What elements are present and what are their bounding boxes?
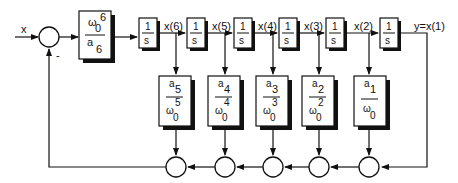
signal-label-x5: x(5): [212, 20, 231, 32]
coefficient-block-a2: a 2 2 ω 0: [302, 76, 338, 130]
signal-label-x3: x(3): [304, 20, 323, 32]
main-feedback-line: [49, 49, 166, 167]
coefficient-block-a3: a 3 3 ω 0: [256, 76, 292, 130]
svg-text:1: 1: [193, 21, 199, 32]
coefficient-block-a1: a 1 ω 0: [354, 76, 390, 130]
signal-label-x2: x(2): [354, 20, 373, 32]
integrator-1: 1 s: [139, 18, 160, 51]
svg-text:s: s: [192, 35, 197, 46]
svg-text:0: 0: [370, 110, 376, 121]
svg-text:s: s: [239, 35, 244, 46]
svg-text:5: 5: [175, 83, 181, 95]
svg-text:1: 1: [240, 21, 246, 32]
svg-text:s: s: [385, 35, 390, 46]
svg-text:3: 3: [272, 83, 278, 95]
svg-text:1: 1: [145, 21, 151, 32]
coefficient-block-a5: a 5 5 ω 0: [159, 76, 195, 130]
input-summing-junction: [39, 27, 59, 47]
feedback-summer-4: [309, 157, 329, 177]
signal-label-x4: x(4): [258, 20, 277, 32]
svg-text:1: 1: [386, 21, 392, 32]
svg-text:0: 0: [316, 112, 322, 123]
svg-text:5: 5: [175, 97, 181, 108]
svg-text:3: 3: [272, 97, 278, 108]
integrator-4: 1 s: [279, 18, 300, 51]
svg-text:1: 1: [370, 83, 376, 95]
svg-text:1: 1: [332, 21, 338, 32]
feedback-summer-5: [359, 157, 379, 177]
svg-text:0: 0: [222, 112, 228, 123]
svg-text:4: 4: [224, 83, 230, 95]
integrator-5: 1 s: [326, 18, 347, 51]
svg-text:0: 0: [95, 22, 101, 34]
output-label: y=x(1): [414, 20, 445, 32]
svg-text:2: 2: [318, 83, 324, 95]
feedback-summer-2: [215, 157, 235, 177]
signal-label-x6: x(6): [164, 20, 183, 32]
integrator-6: 1 s: [380, 18, 401, 51]
svg-text:s: s: [284, 35, 289, 46]
integrator-3: 1 s: [234, 18, 255, 51]
svg-text:4: 4: [224, 97, 230, 108]
svg-text:0: 0: [173, 112, 179, 123]
minus-sign: -: [56, 49, 60, 61]
svg-text:s: s: [144, 35, 149, 46]
integrator-2: 1 s: [187, 18, 208, 51]
feedback-summer-1: [166, 157, 186, 177]
svg-text:6: 6: [96, 43, 102, 55]
svg-text:6: 6: [100, 11, 106, 23]
feedback-summer-3: [263, 157, 283, 177]
svg-text:1: 1: [285, 21, 291, 32]
block-diagram: x - ω 0 6 a 6 1 s x(6) 1 s x(5) 1 s: [0, 0, 458, 183]
input-label: x: [21, 23, 27, 35]
svg-text:0: 0: [270, 112, 276, 123]
coefficient-block-a4: a 4 4 ω 0: [208, 76, 244, 130]
svg-text:a: a: [87, 36, 94, 48]
svg-text:2: 2: [318, 97, 324, 108]
svg-text:s: s: [331, 35, 336, 46]
gain-block: ω 0 6 a 6: [79, 11, 115, 63]
